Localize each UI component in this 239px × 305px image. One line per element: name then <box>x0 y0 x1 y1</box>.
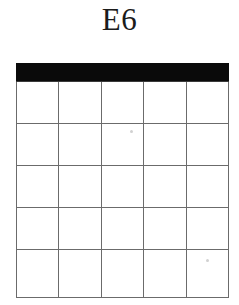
header-cell <box>101 64 143 82</box>
table-cell <box>101 165 143 207</box>
header-cell <box>17 64 59 82</box>
figure-caption: E6 <box>0 3 239 37</box>
table-cell <box>17 249 59 297</box>
table-cell <box>144 81 186 123</box>
table-cell <box>186 207 228 249</box>
table-cell <box>144 165 186 207</box>
table-row <box>17 165 229 207</box>
table-cell <box>144 249 186 297</box>
table-cell <box>144 123 186 165</box>
table-cell <box>101 249 143 297</box>
table-cell <box>17 123 59 165</box>
scan-speckle-artifact <box>130 130 133 133</box>
table-cell <box>59 123 101 165</box>
table-cell <box>59 249 101 297</box>
table-body <box>17 64 229 298</box>
empty-grid-table <box>16 63 229 298</box>
table-cell <box>17 81 59 123</box>
table-cell <box>186 81 228 123</box>
table-cell <box>59 81 101 123</box>
table-cell <box>186 165 228 207</box>
table-row <box>17 249 229 297</box>
header-cell <box>186 64 228 82</box>
table-cell <box>101 207 143 249</box>
table-header-band-row <box>17 64 229 82</box>
table-cell <box>186 249 228 297</box>
table-cell <box>101 123 143 165</box>
table-cell <box>101 81 143 123</box>
table-row <box>17 81 229 123</box>
table-cell <box>17 165 59 207</box>
figure-panel: E6 <box>0 0 239 305</box>
table-cell <box>144 207 186 249</box>
table-cell <box>17 207 59 249</box>
header-cell <box>144 64 186 82</box>
table-cell <box>186 123 228 165</box>
table-row <box>17 207 229 249</box>
table-cell <box>59 207 101 249</box>
scan-speckle-artifact <box>206 259 209 262</box>
header-cell <box>59 64 101 82</box>
table-cell <box>59 165 101 207</box>
table-row <box>17 123 229 165</box>
